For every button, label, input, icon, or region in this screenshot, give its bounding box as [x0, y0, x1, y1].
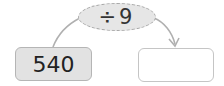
- input-box: 540: [15, 47, 92, 81]
- output-arrow: [154, 18, 175, 44]
- operation-bubble: ÷9: [78, 3, 156, 31]
- input-connector: [53, 18, 80, 47]
- answer-box[interactable]: [138, 48, 214, 82]
